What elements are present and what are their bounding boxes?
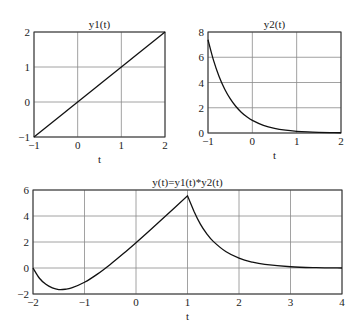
subplot-2: −101202468y2(t)t — [199, 18, 344, 161]
x-axis-label: t — [98, 153, 101, 165]
subplot-title: y1(t) — [89, 18, 111, 31]
subplot-title: y2(t) — [264, 18, 286, 31]
y-tick-label: 4 — [199, 77, 205, 89]
x-tick-label: 3 — [288, 296, 294, 308]
y-tick-label: 2 — [25, 26, 31, 38]
y-tick-label: 4 — [24, 210, 30, 222]
x-tick-label: 2 — [338, 135, 344, 147]
x-tick-label: 0 — [250, 135, 256, 147]
y-tick-label: 0 — [24, 262, 30, 274]
subplot-title: y(t)=y1(t)*y2(t) — [152, 176, 223, 189]
subplot-3: −2−101234−20246y(t)=y1(t)*y2(t)t — [17, 176, 345, 322]
y-tick-label: 8 — [199, 26, 205, 38]
y-tick-label: 2 — [199, 102, 205, 114]
grid-lines — [33, 190, 342, 294]
x-tick-label: 1 — [119, 139, 125, 151]
y-tick-label: 1 — [25, 61, 31, 73]
y-tick-label: 0 — [199, 127, 205, 139]
chart-figure: −1012−1012y1(t)t−101202468y2(t)t−2−10123… — [0, 0, 359, 335]
y-tick-label: −1 — [18, 131, 30, 143]
x-tick-label: 0 — [133, 296, 139, 308]
data-line — [34, 32, 165, 137]
data-line — [208, 40, 341, 133]
x-tick-label: 4 — [339, 296, 345, 308]
y-tick-label: 6 — [24, 184, 30, 196]
x-tick-label: 2 — [236, 296, 242, 308]
y-tick-label: 0 — [25, 96, 31, 108]
y-tick-label: 2 — [24, 236, 30, 248]
x-tick-label: −1 — [79, 296, 91, 308]
x-tick-label: 1 — [294, 135, 300, 147]
y-tick-label: 6 — [199, 51, 205, 63]
x-tick-label: 1 — [185, 296, 191, 308]
x-tick-label: 2 — [162, 139, 168, 151]
grid-lines — [208, 32, 341, 133]
y-tick-label: −2 — [17, 288, 29, 300]
x-tick-label: 0 — [75, 139, 81, 151]
x-axis-label: t — [273, 149, 276, 161]
x-axis-label: t — [186, 310, 189, 322]
subplot-1: −1012−1012y1(t)t — [18, 18, 167, 165]
